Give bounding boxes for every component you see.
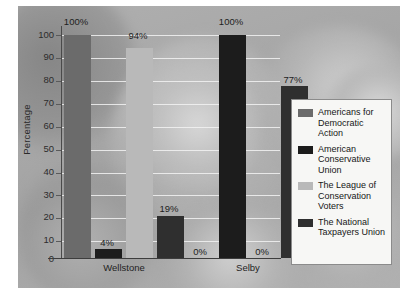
gridline [62, 195, 280, 196]
legend-item-league-of-conservation-voters[interactable]: The League of Conservation Voters [298, 180, 386, 212]
legend-item-label: Americans for Democratic Action [318, 107, 386, 139]
bar-value-selby-ntu: 77% [274, 74, 312, 85]
y-tick-label-50: 50 [26, 144, 54, 154]
legend-swatch-icon [298, 182, 313, 190]
bar-wellstone-americans-for-democratic-action[interactable] [64, 35, 91, 258]
bar-wellstone-national-taxpayers-union[interactable] [157, 216, 184, 258]
legend-item-americans-for-democratic-action[interactable]: Americans for Democratic Action [298, 107, 386, 139]
y-tick-label-0: 0 [26, 254, 54, 264]
x-category-label-wellstone: Wellstone [62, 262, 186, 273]
bar-value-selby-lcv: 0% [243, 246, 281, 257]
y-tick-label-90: 90 [26, 52, 54, 62]
y-tick-label-40: 40 [26, 167, 54, 177]
legend-item-label: The National Taxpayers Union [318, 217, 386, 238]
chart-screenshot: Percentage 100 90 80 70 60 50 40 30 20 1… [0, 0, 406, 302]
y-tick-label-60: 60 [26, 121, 54, 131]
bar-value-wellstone-ada: 100% [57, 16, 95, 27]
bar-value-wellstone-ntu: 19% [150, 203, 188, 214]
x-axis-line [48, 258, 281, 259]
y-tick-label-20: 20 [26, 212, 54, 222]
bar-value-selby-acu: 100% [212, 16, 250, 27]
bar-value-wellstone-lcv: 94% [119, 30, 157, 41]
legend-item-american-conservative-union[interactable]: American Conservative Union [298, 144, 386, 176]
legend-item-label: The League of Conservation Voters [318, 180, 386, 212]
bar-wellstone-league-of-conservation-voters[interactable] [126, 48, 153, 258]
y-axis-ticks: 100 90 80 70 60 50 40 30 20 10 0 [20, 0, 54, 302]
gridline [62, 58, 280, 59]
legend-swatch-icon [298, 219, 313, 227]
y-tick-label-30: 30 [26, 190, 54, 200]
plot-area [62, 28, 280, 258]
legend-item-national-taxpayers-union[interactable]: The National Taxpayers Union [298, 217, 386, 238]
bar-value-wellstone-acu: 4% [88, 237, 126, 248]
bar-selby-american-conservative-union[interactable] [219, 35, 246, 258]
gridline [62, 127, 280, 128]
bar-value-selby-ada: 0% [181, 246, 219, 257]
gridline [62, 104, 280, 105]
y-tick-label-100: 100 [26, 30, 54, 40]
gridline [62, 35, 280, 36]
legend-item-label: American Conservative Union [318, 144, 386, 176]
gridline [62, 173, 280, 174]
bar-wellstone-american-conservative-union[interactable] [95, 249, 122, 258]
legend-swatch-icon [298, 109, 313, 117]
y-tick-label-10: 10 [26, 235, 54, 245]
gridline [62, 150, 280, 151]
y-tick-label-70: 70 [26, 98, 54, 108]
y-tick-label-80: 80 [26, 75, 54, 85]
legend: Americans for Democratic Action American… [291, 99, 392, 265]
gridline [62, 81, 280, 82]
legend-swatch-icon [298, 146, 313, 154]
